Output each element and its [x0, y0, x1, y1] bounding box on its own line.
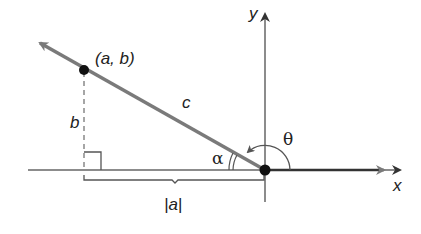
- alpha-label: α: [212, 150, 223, 167]
- horizontal-segment-label: |a|: [164, 196, 182, 213]
- terminal-side-ray: [40, 43, 265, 170]
- diagram-canvas: (a, b) c b |a| α θ x y: [0, 0, 421, 234]
- x-axis-label: x: [393, 177, 402, 194]
- alpha-arc-inner: [229, 153, 233, 170]
- point-label: (a, b): [95, 50, 135, 67]
- y-axis-label: y: [249, 5, 258, 22]
- hypotenuse-label: c: [182, 94, 191, 111]
- horizontal-brace: [84, 175, 264, 183]
- origin-point: [260, 165, 271, 176]
- right-angle-marker: [84, 152, 101, 170]
- theta-label: θ: [283, 131, 293, 148]
- diagram-graphics: [0, 0, 421, 234]
- vertical-segment-label: b: [70, 114, 79, 131]
- point-a-b: [79, 65, 89, 75]
- alpha-arc: [233, 155, 237, 170]
